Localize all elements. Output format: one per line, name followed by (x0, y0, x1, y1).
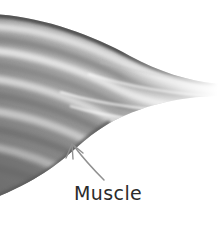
muscle-leader-line (66, 144, 104, 180)
leader-line-stroke (74, 146, 104, 180)
muscle-label: Muscle (74, 182, 142, 204)
muscle-illustration-figure: Muscle (0, 0, 218, 225)
arrowhead-prong-center (72, 144, 73, 159)
